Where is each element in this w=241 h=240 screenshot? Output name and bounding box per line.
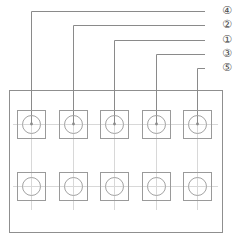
centerline-group — [13, 100, 218, 210]
callout-label-3: ③ — [222, 48, 232, 59]
leader-endpoint-4 — [30, 123, 33, 126]
leader-endpoint-5 — [196, 123, 199, 126]
callout-label-1: ① — [222, 34, 232, 45]
technical-diagram: ④②①③⑤ — [0, 0, 241, 240]
callout-label-4: ④ — [222, 5, 232, 16]
callout-label-5: ⑤ — [222, 62, 232, 73]
leader-endpoint-3 — [155, 123, 158, 126]
callout-label-2: ② — [222, 19, 232, 30]
leader-line-4 — [32, 12, 206, 125]
diagram-canvas — [0, 0, 241, 240]
leader-line-group — [30, 12, 205, 126]
leader-endpoint-2 — [72, 123, 75, 126]
leader-endpoint-1 — [113, 123, 116, 126]
component-tray-panel — [10, 91, 223, 233]
